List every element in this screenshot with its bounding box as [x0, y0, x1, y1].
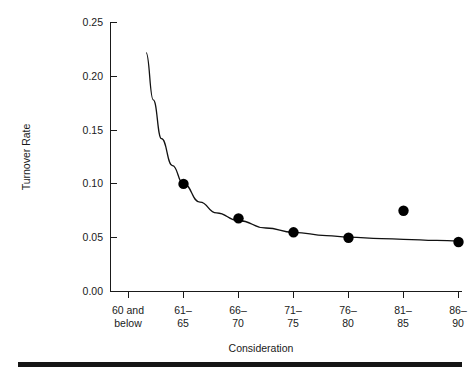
- x-axis-title: Consideration: [229, 342, 294, 354]
- turnover-rate-scatter-chart: 0.25 0.20 0.15 0.10 0.05 0.00 Turnover R…: [0, 0, 476, 375]
- x-tick-label-61-65-line1: 61–: [174, 304, 192, 316]
- data-point-86-90: [453, 237, 463, 247]
- data-point-66-70: [233, 213, 243, 223]
- y-tick-label-0.25: 0.25: [83, 16, 104, 28]
- x-tick-label-66-70-line2: 70: [232, 317, 244, 329]
- x-tick-label-60-and-below-line1: 60 and: [112, 304, 144, 316]
- x-tick-label-81-85-line2: 85: [397, 317, 409, 329]
- y-axis-tick-labels: 0.25 0.20 0.15 0.10 0.05 0.00: [83, 16, 104, 297]
- x-tick-label-86-90-line1: 86–: [449, 304, 467, 316]
- y-tick-label-0.05: 0.05: [83, 231, 104, 243]
- data-point-61-65: [178, 179, 188, 189]
- x-tick-label-71-75-line2: 75: [287, 317, 299, 329]
- y-tick-label-0.20: 0.20: [83, 70, 104, 82]
- x-tick-label-76-80-line2: 80: [342, 317, 354, 329]
- data-point-81-85: [398, 206, 408, 216]
- plot-data-layer: [146, 53, 464, 248]
- x-tick-label-60-and-below-line2: below: [114, 317, 142, 329]
- bottom-rule: [18, 362, 462, 367]
- x-axis-ticks: [129, 292, 459, 299]
- x-tick-label-76-80-line1: 76–: [339, 304, 357, 316]
- y-tick-label-0.10: 0.10: [83, 177, 104, 189]
- x-tick-label-66-70-line1: 66–: [229, 304, 247, 316]
- chart-figure: 0.25 0.20 0.15 0.10 0.05 0.00 Turnover R…: [0, 0, 476, 375]
- y-axis-title: Turnover Rate: [20, 123, 32, 190]
- data-point-71-75: [288, 227, 298, 237]
- y-tick-label-0.15: 0.15: [83, 124, 104, 136]
- fitted-curve: [146, 53, 458, 241]
- x-tick-label-61-65-line2: 65: [177, 317, 189, 329]
- x-tick-label-86-90-line2: 90: [452, 317, 464, 329]
- y-tick-label-0.00: 0.00: [83, 285, 104, 297]
- y-axis-ticks: [111, 23, 118, 238]
- x-tick-label-71-75-line1: 71–: [284, 304, 302, 316]
- x-tick-label-81-85-line1: 81–: [394, 304, 412, 316]
- x-axis-tick-labels: 60 and below 61– 65 66– 70 71– 75 76– 80…: [112, 304, 467, 329]
- data-point-76-80: [343, 233, 353, 243]
